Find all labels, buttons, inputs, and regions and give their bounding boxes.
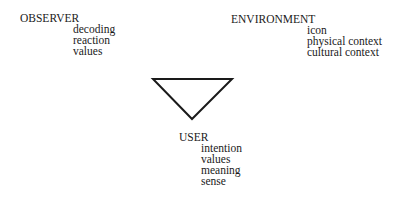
user-node: USER intention values meaning sense <box>179 131 242 187</box>
user-item: sense <box>201 176 242 187</box>
user-items: intention values meaning sense <box>201 143 242 187</box>
